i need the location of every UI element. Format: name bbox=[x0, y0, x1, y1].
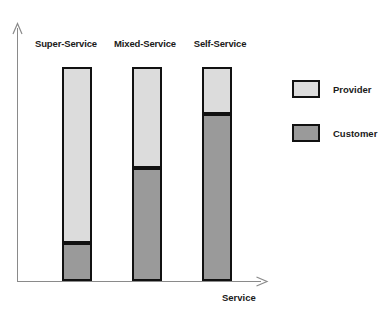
stacked-bar-chart: Super-Service Mixed-Service Self-Service… bbox=[0, 0, 384, 314]
bar-mixed-service[interactable] bbox=[132, 67, 162, 281]
category-label-self-service: Self-Service bbox=[183, 38, 257, 49]
legend-item-provider[interactable]: Provider bbox=[292, 80, 372, 98]
x-axis-line bbox=[17, 281, 261, 282]
x-axis-arrow-icon bbox=[255, 275, 269, 288]
bar-segment-provider[interactable] bbox=[132, 67, 162, 168]
category-label-super-service: Super-Service bbox=[26, 38, 106, 49]
legend-swatch-customer bbox=[292, 124, 320, 142]
bar-segment-provider[interactable] bbox=[62, 67, 92, 243]
legend-label-provider: Provider bbox=[333, 84, 372, 95]
bar-segment-provider[interactable] bbox=[202, 67, 232, 114]
category-label-mixed-service: Mixed-Service bbox=[105, 38, 185, 49]
bar-self-service[interactable] bbox=[202, 67, 232, 281]
bar-super-service[interactable] bbox=[62, 67, 92, 281]
bar-segment-customer[interactable] bbox=[202, 114, 232, 281]
legend-swatch-provider bbox=[292, 80, 320, 98]
y-axis-line bbox=[17, 28, 18, 282]
bar-segment-customer[interactable] bbox=[62, 243, 92, 281]
y-axis-arrow-icon bbox=[11, 22, 24, 36]
chart-legend: Provider Customer bbox=[292, 80, 384, 150]
legend-item-customer[interactable]: Customer bbox=[292, 124, 377, 142]
x-axis-label: Service bbox=[222, 292, 256, 303]
bar-segment-customer[interactable] bbox=[132, 168, 162, 281]
legend-label-customer: Customer bbox=[333, 128, 377, 139]
